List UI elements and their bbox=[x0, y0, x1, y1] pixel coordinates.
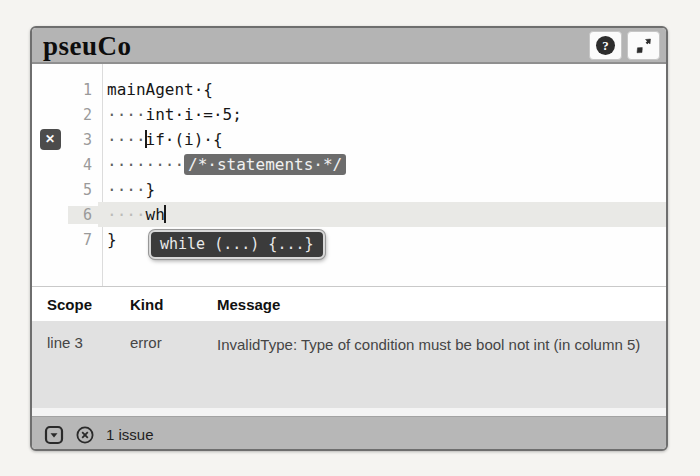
chevron-down-box-icon bbox=[44, 425, 64, 445]
expand-diagonal-icon bbox=[633, 35, 655, 57]
code-text: } bbox=[107, 230, 117, 249]
issue-kind: error bbox=[130, 334, 217, 408]
status-bar: 1 issue bbox=[32, 416, 666, 451]
code-line-3[interactable]: ✕ 3 ····if·(i)·{ bbox=[32, 127, 666, 152]
table-bottom-gap bbox=[32, 408, 666, 416]
code-text: if·(i)·{ bbox=[146, 130, 223, 149]
code-text: mainAgent·{ bbox=[107, 80, 213, 99]
indent-dots: ···· bbox=[107, 180, 146, 199]
header-buttons: ? bbox=[589, 31, 660, 60]
editor-lines: 1 mainAgent·{ 2 ····int·i·=·5; ✕ 3 ····i… bbox=[32, 77, 666, 252]
code-line-6-active[interactable]: 6 ····wh bbox=[32, 202, 666, 227]
indent-dots: ···· bbox=[107, 205, 146, 224]
code-editor[interactable]: 1 mainAgent·{ 2 ····int·i·=·5; ✕ 3 ····i… bbox=[32, 64, 666, 286]
column-header-scope: Scope bbox=[47, 296, 130, 313]
issue-scope: line 3 bbox=[47, 334, 130, 408]
line-number: 5 bbox=[68, 181, 98, 199]
line-number: 1 bbox=[68, 81, 98, 99]
issue-row[interactable]: line 3 error InvalidType: Type of condit… bbox=[32, 321, 666, 408]
line-number: 3 bbox=[68, 131, 98, 149]
issue-message: InvalidType: Type of condition must be b… bbox=[217, 334, 642, 408]
app-title: pseuCo bbox=[43, 29, 132, 63]
help-icon: ? bbox=[596, 36, 615, 55]
issues-table: Scope Kind Message line 3 error InvalidT… bbox=[32, 286, 666, 416]
indent-dots: ········ bbox=[107, 155, 184, 174]
column-header-message: Message bbox=[217, 294, 642, 315]
selected-placeholder[interactable]: /*·statements·*/ bbox=[184, 154, 346, 175]
code-line-2[interactable]: 2 ····int·i·=·5; bbox=[32, 102, 666, 127]
line-number: 2 bbox=[68, 106, 98, 124]
issues-table-header: Scope Kind Message bbox=[32, 287, 666, 321]
code-text: int·i·=·5; bbox=[146, 105, 242, 124]
error-marker-icon[interactable]: ✕ bbox=[40, 129, 61, 150]
collapse-panel-button[interactable] bbox=[44, 425, 64, 445]
code-line-1[interactable]: 1 mainAgent·{ bbox=[32, 77, 666, 102]
autocomplete-suggestion[interactable]: while (...) {...} bbox=[149, 230, 325, 259]
text-cursor bbox=[164, 205, 166, 223]
line-number: 4 bbox=[68, 156, 98, 174]
help-button[interactable]: ? bbox=[589, 31, 622, 60]
indent-dots: ···· bbox=[107, 105, 146, 124]
column-header-kind: Kind bbox=[130, 296, 217, 313]
issue-count-label: 1 issue bbox=[106, 426, 154, 443]
circled-x-icon bbox=[75, 425, 95, 445]
header-bar: pseuCo ? bbox=[32, 28, 666, 64]
line-number: 7 bbox=[68, 231, 98, 249]
error-count-button[interactable] bbox=[75, 425, 95, 445]
code-line-4[interactable]: 4 ········/*·statements·*/ bbox=[32, 152, 666, 177]
indent-dots: ···· bbox=[107, 130, 146, 149]
expand-button[interactable] bbox=[627, 31, 660, 60]
code-line-7[interactable]: 7 } bbox=[32, 227, 666, 252]
line-number: 6 bbox=[68, 206, 98, 224]
code-line-5[interactable]: 5 ····} bbox=[32, 177, 666, 202]
pseuco-widget: pseuCo ? 1 bbox=[30, 26, 668, 451]
code-text: } bbox=[146, 180, 156, 199]
code-text: wh bbox=[146, 205, 165, 224]
